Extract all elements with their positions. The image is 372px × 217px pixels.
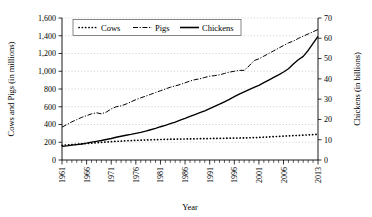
y-axis-tick-label: 1,200: [38, 49, 56, 58]
y2-axis-tick-label: 60: [324, 34, 332, 43]
y-axis-tick-label: 1,400: [38, 32, 56, 41]
y2-axis-tick-label: 0: [324, 156, 328, 165]
y2-axis-tick-label: 30: [324, 95, 332, 104]
y-axis-tick-label: 200: [44, 138, 56, 147]
x-axis-ticks: [62, 160, 318, 165]
y-axis-tick-label: 800: [44, 85, 56, 94]
series-line-cows: [62, 134, 318, 145]
x-axis-tick-label: 1966: [83, 167, 92, 183]
x-axis-tick-label: 1986: [181, 167, 190, 183]
y2-axis-tick-label: 20: [324, 115, 332, 124]
x-axis-tick-label: 1976: [132, 167, 141, 183]
x-axis-tick-label: 1991: [206, 167, 215, 183]
x-axis-title: Year: [182, 202, 198, 212]
y-axis-tick-label: 1,000: [38, 67, 56, 76]
series-line-pigs: [62, 30, 318, 128]
x-axis-tick-label: 1961: [58, 167, 67, 183]
right-axis-ticks: [318, 18, 322, 160]
x-axis-tick-labels: 1961196619711976198119861991199620012006…: [58, 167, 323, 183]
x-axis-tick-label: 2006: [280, 167, 289, 183]
series-line-chickens: [62, 36, 318, 146]
y2-axis-title: Chickens (in billions): [352, 52, 362, 126]
left-axis-tick-labels: 02004006008001,0001,2001,4001,600: [38, 14, 56, 165]
y-axis-tick-label: 0: [52, 156, 56, 165]
x-axis-tick-label: 2001: [255, 167, 264, 183]
y-axis-tick-label: 400: [44, 120, 56, 129]
data-series: [62, 30, 318, 147]
x-axis-tick-label: 1996: [230, 167, 239, 183]
y-axis-tick-label: 1,600: [38, 14, 56, 23]
x-axis-tick-label: 1981: [156, 167, 165, 183]
livestock-line-chart: 02004006008001,0001,2001,4001,600 010203…: [0, 0, 372, 217]
gridlines: [62, 18, 318, 142]
y-axis-title: Cows and Pigs (in millions): [6, 41, 16, 136]
y2-axis-tick-label: 50: [324, 54, 332, 63]
x-axis-tick-label: 1971: [107, 167, 116, 183]
y2-axis-tick-label: 40: [324, 75, 332, 84]
left-axis-ticks: [59, 18, 63, 160]
right-axis-tick-labels: 010203040506070: [324, 14, 332, 165]
chart-container: 02004006008001,0001,2001,4001,600 010203…: [0, 0, 372, 217]
legend-label-chickens: Chickens: [202, 23, 234, 33]
legend-label-pigs: Pigs: [155, 23, 170, 33]
x-axis-tick-label: 2013: [314, 167, 323, 183]
y2-axis-tick-label: 70: [324, 14, 332, 23]
y2-axis-tick-label: 10: [324, 136, 332, 145]
legend-label-cows: Cows: [101, 23, 120, 33]
legend: Cows Pigs Chickens: [73, 20, 241, 36]
y-axis-tick-label: 600: [44, 103, 56, 112]
